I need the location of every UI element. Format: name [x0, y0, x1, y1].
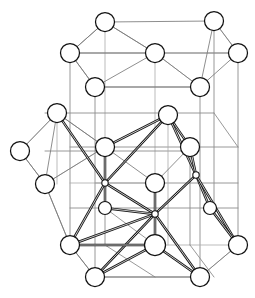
unit-cell-frame: [20, 21, 238, 277]
mid-left-inner-atom: [96, 138, 115, 157]
top-apex-atom: [96, 13, 115, 32]
cell-edge-line: [214, 113, 238, 147]
center-atom: [146, 174, 165, 193]
bottom-front-left-atom: [86, 268, 105, 287]
thin-bond-group: [20, 21, 238, 277]
upper-right-edge-atom: [229, 44, 248, 63]
mid-right-inner-atom: [181, 138, 200, 157]
thin-bond-line: [105, 21, 214, 22]
mid-left-corner-atom: [48, 104, 67, 123]
tetrahedral-center-left: [102, 180, 108, 186]
far-left-atom: [11, 142, 30, 161]
small-atom-left-lower: [99, 202, 112, 215]
mid-center-top-atom: [159, 106, 178, 125]
crystal-structure-figure: [0, 0, 255, 298]
tetrahedral-center-right: [193, 172, 199, 178]
bottom-right-corner-atom: [229, 236, 248, 255]
upper-inner-left-atom: [86, 78, 105, 97]
crystal-structure-svg: [0, 0, 255, 298]
upper-inner-right-atom: [191, 78, 210, 97]
upper-left-atom: [61, 44, 80, 63]
small-atom-right-lower: [204, 202, 217, 215]
strong-bond-highlight: [213, 212, 233, 238]
upper-center-atom: [146, 44, 165, 63]
lower-left-outer-atom: [36, 175, 55, 194]
bottom-front-right-atom: [191, 268, 210, 287]
thin-bond-line: [95, 53, 155, 87]
bottom-center-atom: [145, 235, 166, 256]
thin-bond-line: [45, 147, 105, 184]
bottom-left-corner-atom: [61, 236, 80, 255]
top-right-atom: [205, 12, 224, 31]
tetrahedral-center-bottom: [152, 211, 158, 217]
